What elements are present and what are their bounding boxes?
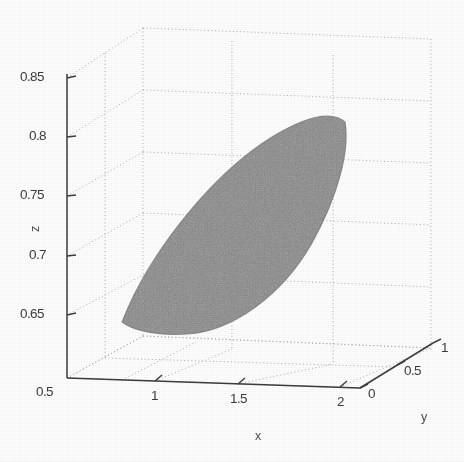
z-tick-label-0.8: 0.8: [29, 129, 46, 143]
surface-patch: [100, 100, 370, 360]
z-tick-label-0.65: 0.65: [20, 307, 44, 321]
x-axis-line: [67, 378, 360, 388]
y-tick-label-0.5: 0.5: [404, 364, 421, 378]
x-tick-label-2: 2: [337, 395, 344, 409]
y-axis-line: [360, 343, 433, 388]
x-axis-ticks: [155, 375, 347, 387]
z-axis-ticks: [67, 76, 76, 315]
y-tick-label-1: 1: [441, 341, 448, 355]
y-axis-label: y: [421, 411, 427, 424]
x-tick-label-1.5: 1.5: [230, 392, 247, 406]
figure-canvas: 0.85 0.8 0.75 0.7 0.65 0.5 1 1.5 2 0 0.5…: [0, 0, 464, 462]
z-tick-label-0.7: 0.7: [29, 248, 46, 262]
x-tick-label-1: 1: [151, 389, 158, 403]
x-tick-label-0.5: 0.5: [36, 385, 53, 399]
x-axis-label: x: [255, 430, 261, 443]
z-tick-label-0.85: 0.85: [20, 70, 44, 84]
z-axis-label: z: [29, 226, 42, 232]
y-tick-label-0: 0: [368, 387, 375, 401]
z-tick-label-0.75: 0.75: [20, 188, 44, 202]
